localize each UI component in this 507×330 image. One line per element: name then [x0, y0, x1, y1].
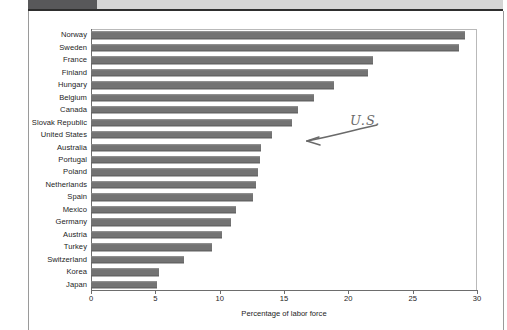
bar-row: Norway — [0, 29, 507, 41]
category-label: Germany — [55, 219, 87, 227]
bar-row: Switzerland — [0, 254, 507, 266]
bar — [91, 156, 260, 163]
bar-row: Netherlands — [0, 179, 507, 191]
scanned-page: NorwaySwedenFranceFinlandHungaryBelgiumC… — [0, 0, 507, 330]
bar-row: Mexico — [0, 204, 507, 216]
category-label: Norway — [61, 31, 87, 39]
bar — [91, 69, 368, 76]
bar — [91, 194, 253, 201]
category-label: Hungary — [58, 81, 87, 89]
category-label: Sweden — [59, 44, 87, 52]
x-tick-label: 25 — [408, 295, 416, 303]
x-tick-label: 20 — [344, 295, 352, 303]
category-label: Portugal — [58, 156, 87, 164]
bar — [91, 269, 159, 276]
bar-row: France — [0, 54, 507, 66]
category-label: United States — [41, 131, 87, 139]
bar — [91, 244, 212, 251]
bar — [91, 119, 292, 126]
bar-row: Poland — [0, 166, 507, 178]
bar — [91, 81, 334, 88]
category-label: Poland — [63, 169, 87, 177]
bar — [91, 169, 258, 176]
category-label: Korea — [66, 268, 87, 276]
category-label: Slovak Republic — [32, 119, 87, 127]
bar-row: Australia — [0, 141, 507, 153]
bar-row: Belgium — [0, 91, 507, 103]
bar — [91, 256, 184, 263]
bar — [91, 144, 261, 151]
category-label: Mexico — [63, 206, 87, 214]
bar-row: Turkey — [0, 241, 507, 253]
bar-row: Slovak Republic — [0, 116, 507, 128]
category-label: Canada — [60, 106, 87, 114]
bar — [91, 231, 222, 238]
bar-row: Finland — [0, 66, 507, 78]
category-label: Finland — [62, 69, 87, 77]
category-label: Austria — [63, 231, 87, 239]
bar — [91, 206, 236, 213]
bar-row: Korea — [0, 266, 507, 278]
bar-row: Hungary — [0, 79, 507, 91]
x-tick-label: 10 — [215, 295, 223, 303]
category-label: Switzerland — [47, 256, 87, 264]
bar-row: Canada — [0, 104, 507, 116]
bar — [91, 219, 231, 226]
category-label: Spain — [67, 194, 87, 202]
category-label: Japan — [66, 281, 87, 289]
bar — [91, 32, 465, 39]
x-tick-label: 5 — [153, 295, 157, 303]
x-axis-title: Percentage of labor force — [91, 310, 477, 318]
bar-row: Sweden — [0, 41, 507, 53]
category-label: Turkey — [64, 244, 87, 252]
bar-rows: NorwaySwedenFranceFinlandHungaryBelgiumC… — [0, 29, 507, 291]
bar — [91, 94, 314, 101]
x-tick-label: 30 — [473, 295, 481, 303]
x-tick-label: 0 — [89, 295, 93, 303]
bar — [91, 181, 256, 188]
bar — [91, 281, 157, 288]
x-tick-label: 15 — [280, 295, 288, 303]
bar-row: Germany — [0, 216, 507, 228]
bar — [91, 44, 459, 51]
bar — [91, 106, 298, 113]
bar-row: Austria — [0, 229, 507, 241]
category-label: Netherlands — [46, 181, 88, 189]
bar — [91, 56, 373, 63]
bar — [91, 131, 272, 138]
category-label: Belgium — [59, 94, 87, 102]
category-label: Australia — [57, 144, 87, 152]
bar-row: Spain — [0, 191, 507, 203]
category-label: France — [63, 56, 87, 64]
bar-row: United States — [0, 129, 507, 141]
bar-chart: NorwaySwedenFranceFinlandHungaryBelgiumC… — [0, 0, 507, 330]
bar-row: Portugal — [0, 154, 507, 166]
